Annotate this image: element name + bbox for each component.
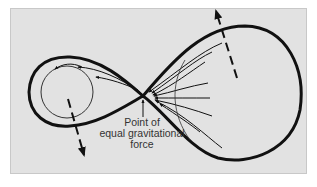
stream-line	[152, 52, 212, 93]
stream-line	[154, 83, 208, 96]
crossing-point-label: Point of equal gravitational force	[84, 117, 200, 150]
roche-lobe-diagram	[0, 0, 317, 187]
small-star-circle	[41, 66, 93, 118]
label-line-3: force	[84, 139, 200, 150]
